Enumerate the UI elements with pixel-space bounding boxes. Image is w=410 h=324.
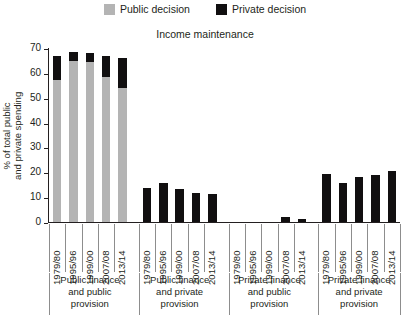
- bar-segment-public-decision: [118, 88, 127, 222]
- bar-segment-private-decision: [53, 56, 62, 80]
- y-axis-tick-label: 30: [30, 142, 41, 152]
- x-axis-tick-separator: [351, 224, 352, 272]
- group-label-line: provision: [229, 298, 311, 310]
- bar-column[interactable]: [281, 48, 290, 222]
- x-axis-tick-label: 1995/96: [65, 224, 81, 272]
- x-axis-tick-separator: [261, 224, 262, 272]
- y-axis-tick-20: 20: [44, 173, 48, 174]
- x-axis-tick-label: 2013/14: [294, 224, 310, 272]
- bar-column[interactable]: [265, 48, 274, 222]
- bar-column[interactable]: [86, 48, 95, 222]
- y-axis-tick-label: 50: [30, 93, 41, 103]
- bar-segment-private-decision: [339, 183, 348, 222]
- bar-segment-private-decision: [159, 183, 168, 222]
- bar-segment-private-decision: [143, 188, 152, 222]
- bar-column[interactable]: [192, 48, 201, 222]
- y-axis-tick-10: 10: [44, 198, 48, 199]
- bar-column[interactable]: [175, 48, 184, 222]
- group-label-line: provision: [318, 298, 400, 310]
- bar-column[interactable]: [322, 48, 331, 222]
- bar-segment-public-decision: [86, 62, 95, 222]
- bar-column[interactable]: [69, 48, 78, 222]
- bars-layer: [49, 48, 400, 222]
- bar-column[interactable]: [159, 48, 168, 222]
- group-label-separator: [318, 273, 319, 315]
- x-axis-tick-separator: [318, 224, 319, 272]
- x-axis-group-label: Public financeand privateprovision: [139, 274, 221, 310]
- y-axis-tick-label: 70: [30, 43, 41, 53]
- y-axis-tick-label: 10: [30, 192, 41, 202]
- bar-segment-private-decision: [192, 193, 201, 222]
- group-label-line: and public: [49, 286, 131, 298]
- y-axis-label-line2: and private spending: [13, 91, 24, 179]
- x-axis-tick-label: 2007/08: [278, 224, 294, 272]
- x-axis-tick-label: 1979/80: [49, 224, 65, 272]
- bar-column[interactable]: [118, 48, 127, 222]
- bar-segment-private-decision: [355, 177, 364, 222]
- bar-segment-private-decision: [118, 58, 127, 88]
- bar-column[interactable]: [143, 48, 152, 222]
- legend-swatch-public-icon: [104, 4, 115, 15]
- x-axis-tick-separator: [82, 224, 83, 272]
- x-axis-tick-label: 2013/14: [384, 224, 400, 272]
- bar-column[interactable]: [371, 48, 380, 222]
- bar-segment-private-decision: [102, 56, 111, 77]
- y-axis-tick-50: 50: [44, 99, 48, 100]
- x-axis-tick-separator: [384, 224, 385, 272]
- chart-title: Income maintenance: [0, 28, 410, 40]
- y-axis-tick-label: 40: [30, 118, 41, 128]
- x-axis-tick-label: 1999/00: [82, 224, 98, 272]
- legend-label-private-decision: Private decision: [232, 4, 306, 15]
- group-label-separator: [229, 273, 230, 315]
- bar-column[interactable]: [102, 48, 111, 222]
- x-axis-tick-label: 2013/14: [204, 224, 220, 272]
- x-axis-group-label: Public financeand publicprovision: [49, 274, 131, 310]
- x-axis-tick-separator: [367, 224, 368, 272]
- x-axis-tick-separator: [188, 224, 189, 272]
- group-label-line: Private finance: [229, 274, 311, 286]
- x-axis-tick-label: 1999/00: [351, 224, 367, 272]
- x-axis-tick-labels: 1979/801995/961999/002007/082013/141979/…: [48, 224, 400, 272]
- x-axis-tick-label: 1999/00: [171, 224, 187, 272]
- group-label-separator: [49, 273, 50, 315]
- bar-segment-public-decision: [69, 61, 78, 222]
- bar-column[interactable]: [355, 48, 364, 222]
- group-label-line: Public finance: [139, 274, 221, 286]
- group-label-line: Public finance: [49, 274, 131, 286]
- bar-column[interactable]: [298, 48, 307, 222]
- bar-column[interactable]: [232, 48, 241, 222]
- x-axis-tick-separator: [139, 224, 140, 272]
- bar-column[interactable]: [249, 48, 258, 222]
- y-axis-tick-label: 0: [35, 217, 41, 227]
- group-label-separator: [139, 273, 140, 315]
- x-axis-tick-separator: [294, 224, 295, 272]
- bar-segment-public-decision: [53, 80, 62, 222]
- bar-column[interactable]: [388, 48, 397, 222]
- legend-item-public-decision: Public decision: [104, 4, 190, 15]
- x-axis-tick-label: 2007/08: [98, 224, 114, 272]
- bar-column[interactable]: [53, 48, 62, 222]
- x-axis-tick-label: 1979/80: [229, 224, 245, 272]
- bar-column[interactable]: [339, 48, 348, 222]
- bar-segment-private-decision: [388, 171, 397, 222]
- bar-column[interactable]: [208, 48, 217, 222]
- group-label-line: Private finance: [318, 274, 400, 286]
- y-axis-tick-60: 60: [44, 74, 48, 75]
- bar-segment-private-decision: [322, 174, 331, 222]
- x-axis-tick-separator: [49, 224, 50, 272]
- x-axis-tick-label: 1979/80: [139, 224, 155, 272]
- x-axis-tick-separator: [65, 224, 66, 272]
- bar-segment-private-decision: [208, 194, 217, 222]
- group-label-line: provision: [49, 298, 131, 310]
- x-axis-group-label: Private financeand publicprovision: [229, 274, 311, 310]
- bar-segment-private-decision: [298, 219, 307, 222]
- x-axis-tick-separator: [229, 224, 230, 272]
- legend-swatch-private-icon: [216, 4, 227, 15]
- x-axis-tick-separator: [245, 224, 246, 272]
- x-axis-tick-label: 1995/96: [335, 224, 351, 272]
- y-axis-label: % of total public and private spending: [2, 48, 24, 223]
- group-label-line: provision: [139, 298, 221, 310]
- income-maintenance-chart: Public decision Private decision Income …: [0, 0, 410, 324]
- x-axis-tick-separator: [171, 224, 172, 272]
- group-label-line: and private: [318, 286, 400, 298]
